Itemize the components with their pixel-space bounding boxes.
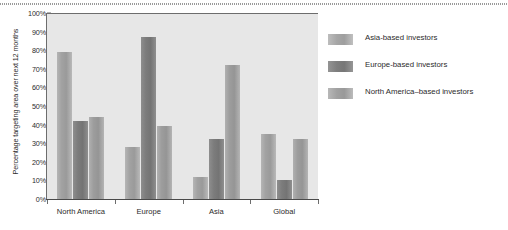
legend-label: North America–based investors (365, 87, 473, 96)
bar (225, 65, 240, 199)
bar (209, 139, 224, 199)
y-axis-tick-label: 90% (32, 27, 46, 36)
x-axis-tick-label: Global (273, 207, 295, 216)
y-axis-tick-label: 70% (32, 64, 46, 73)
legend-item: Asia-based investors (328, 32, 508, 59)
bar (141, 37, 156, 199)
y-axis-tick-label: 40% (32, 120, 46, 129)
legend-label: Europe-based investors (365, 60, 447, 69)
x-axis-tick-mark (318, 200, 319, 204)
bar (89, 117, 104, 199)
y-axis-tick-label: 80% (32, 46, 46, 55)
bar (57, 52, 72, 199)
plot-area: Percentage targeting area over next 12 m… (0, 9, 330, 219)
bar (73, 121, 88, 199)
bar (293, 139, 308, 199)
legend-color-swatch (328, 88, 353, 99)
legend-color-swatch (328, 34, 353, 45)
bar-series-container (47, 13, 318, 199)
bar (193, 177, 208, 199)
x-axis-tick-mark (115, 200, 116, 204)
legend-item: Europe-based investors (328, 59, 508, 86)
x-axis-tick-mark (183, 200, 184, 204)
x-axis-tick-label: North America (57, 207, 105, 216)
chart-legend: Asia-based investorsEurope-based investo… (328, 32, 508, 113)
y-axis-tick-label: 100% (28, 9, 46, 18)
x-axis-tick-label: Europe (136, 207, 161, 216)
bar (261, 134, 276, 199)
top-divider-dotted (0, 3, 508, 5)
bar (125, 147, 140, 199)
y-axis-tick-label: 60% (32, 83, 46, 92)
y-axis-tick-label: 10% (32, 176, 46, 185)
y-axis-ticks: 0%10%20%30%40%50%60%70%80%90%100% (10, 9, 46, 199)
bar (277, 180, 292, 199)
y-axis-tick-label: 50% (32, 102, 46, 111)
y-axis-tick-label: 20% (32, 157, 46, 166)
legend-color-swatch (328, 61, 353, 72)
y-axis-tick-label: 0% (36, 195, 46, 204)
x-axis-tick-mark (47, 200, 48, 204)
legend-label: Asia-based investors (365, 33, 437, 42)
x-axis-tick-mark (250, 200, 251, 204)
y-axis-tick-label: 30% (32, 139, 46, 148)
bar (157, 126, 172, 199)
legend-item: North America–based investors (328, 86, 508, 113)
x-axis-tick-label: Asia (209, 207, 224, 216)
chart-figure: Percentage targeting area over next 12 m… (0, 0, 508, 230)
